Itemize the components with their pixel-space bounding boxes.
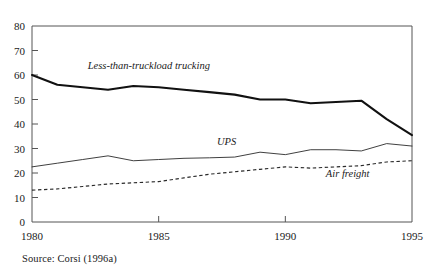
y-axis-tick-label: 80: [14, 20, 26, 32]
x-axis-tick-label: 1985: [148, 230, 171, 242]
y-axis-tick-label: 10: [14, 192, 26, 204]
y-axis-tick-label: 70: [14, 45, 26, 57]
y-axis-tick-label: 60: [14, 69, 26, 81]
x-axis-tick-label: 1990: [274, 230, 297, 242]
y-axis-tick-labels: 01020304050607080: [14, 20, 26, 228]
series-line-ups: [32, 144, 412, 167]
y-axis-tick-label: 50: [14, 94, 26, 106]
x-axis-ticks: [159, 216, 286, 222]
y-axis-ticks: [32, 51, 38, 198]
plot-area-border: [32, 26, 412, 222]
line-chart: 01020304050607080 1980198519901995 Less-…: [0, 0, 431, 272]
x-axis-tick-label: 1995: [401, 230, 424, 242]
y-axis-tick-label: 0: [20, 216, 26, 228]
series-label-less-than-truckload-trucking: Less-than-truckload trucking: [87, 60, 210, 71]
y-axis-tick-label: 30: [14, 143, 26, 155]
y-axis-tick-label: 40: [14, 118, 26, 130]
series-line-less-than-truckload-trucking: [32, 75, 412, 135]
series-inline-labels: Less-than-truckload truckingUPSAir freig…: [87, 60, 371, 179]
series-label-ups: UPS: [217, 136, 237, 147]
chart-figure: 01020304050607080 1980198519901995 Less-…: [0, 0, 431, 272]
x-axis-tick-label: 1980: [21, 230, 44, 242]
x-axis-tick-labels: 1980198519901995: [21, 230, 424, 242]
series-label-air-freight: Air freight: [325, 168, 371, 179]
y-axis-tick-label: 20: [14, 167, 26, 179]
source-note: Source: Corsi (1996a): [22, 253, 117, 264]
